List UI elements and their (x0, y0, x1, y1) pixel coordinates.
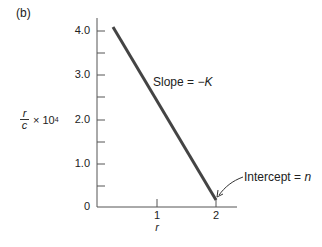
slope-annotation: Slope = −K (153, 75, 212, 89)
y-tick-label: 3.0 (60, 68, 90, 80)
intercept-arrow-icon (217, 177, 243, 197)
y-tick-label: 2.0 (60, 113, 90, 125)
y-tick-label: 0 (60, 200, 90, 212)
x-axis-label: r (147, 221, 167, 233)
y-axis-label: r c × 104 (20, 108, 59, 131)
intercept-annotation: Intercept = n (244, 170, 311, 184)
x-tick-label: 2 (206, 209, 226, 221)
data-line (113, 27, 216, 200)
x-ticks (157, 199, 216, 207)
y-label-multiplier: × 10 (33, 114, 55, 126)
y-label-exponent: 4 (55, 116, 59, 123)
x-tick-label: 1 (147, 209, 167, 221)
y-label-denominator: c (22, 120, 28, 131)
y-tick-label: 1.0 (60, 157, 90, 169)
y-ticks (97, 31, 105, 186)
y-tick-label: 4.0 (60, 24, 90, 36)
y-label-numerator: r (23, 108, 27, 119)
